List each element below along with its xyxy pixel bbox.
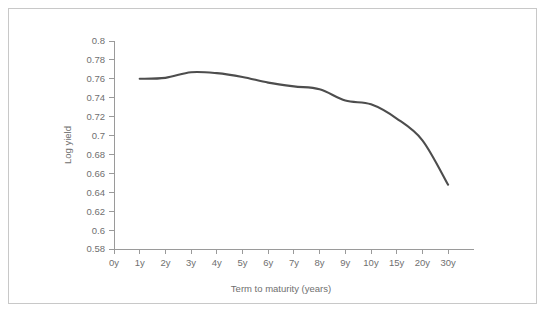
- x-tick-label: 0y: [109, 257, 119, 268]
- line-chart: 0.58 0.6 0.62 0.64 0.66 0.68 0.7 0.72 0.…: [9, 9, 536, 303]
- y-tick-label: 0.8: [92, 35, 105, 46]
- x-tick-label: 5y: [237, 257, 247, 268]
- x-tick-label: 7y: [289, 257, 299, 268]
- x-tick-label: 2y: [160, 257, 170, 268]
- y-tick-label: 0.68: [87, 149, 106, 160]
- x-tick-label: 10y: [363, 257, 379, 268]
- y-tick-label: 0.7: [92, 130, 105, 141]
- x-tick-label: 4y: [212, 257, 222, 268]
- x-tick-label: 20y: [415, 257, 431, 268]
- y-tick-label: 0.72: [87, 111, 106, 122]
- y-axis-ticks: 0.58 0.6 0.62 0.64 0.66 0.68 0.7 0.72 0.…: [87, 35, 115, 254]
- y-tick-label: 0.58: [87, 243, 106, 254]
- x-axis-ticks: 0y 1y 2y 3y 4y 5y 6y 7y 8y 9y 10y 15y: [109, 249, 456, 268]
- y-tick-label: 0.76: [87, 73, 106, 84]
- x-tick-label: 1y: [135, 257, 145, 268]
- yield-curve-line: [140, 72, 448, 185]
- y-tick-label: 0.62: [87, 206, 106, 217]
- y-tick-label: 0.78: [87, 54, 106, 65]
- y-tick-label: 0.66: [87, 168, 106, 179]
- y-tick-label: 0.74: [87, 92, 106, 103]
- x-tick-label: 3y: [186, 257, 196, 268]
- x-tick-label: 6y: [263, 257, 273, 268]
- y-tick-label: 0.64: [87, 187, 106, 198]
- figure-frame: 0.58 0.6 0.62 0.64 0.66 0.68 0.7 0.72 0.…: [8, 8, 537, 304]
- x-axis-title: Term to maturity (years): [231, 283, 331, 294]
- x-tick-label: 30y: [440, 257, 456, 268]
- y-axis-title: Log yield: [62, 126, 73, 164]
- x-tick-label: 15y: [389, 257, 405, 268]
- y-tick-label: 0.6: [92, 225, 105, 236]
- x-tick-label: 9y: [340, 257, 350, 268]
- x-tick-label: 8y: [315, 257, 325, 268]
